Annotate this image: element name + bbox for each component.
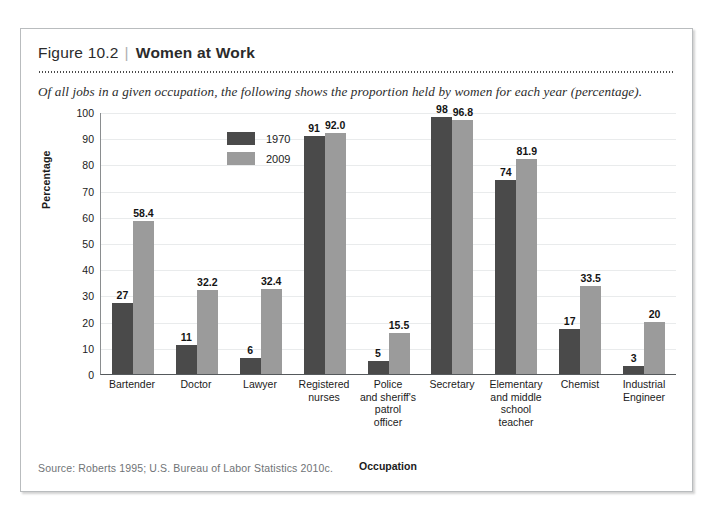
x-axis-tick-line: patrol — [358, 403, 418, 416]
bar-2009: 32.4 — [261, 289, 282, 374]
bar-2009: 33.5 — [580, 286, 601, 374]
x-axis-tick-line: Registered — [294, 378, 354, 391]
bar-value-label: 5 — [375, 347, 381, 359]
bar-group: 9896.8 — [420, 113, 484, 374]
bar-1970: 27 — [112, 303, 133, 374]
y-axis-tick: 70 — [54, 186, 94, 198]
bar-group: 7481.9 — [484, 113, 548, 374]
bar-value-label: 74 — [500, 166, 512, 178]
x-axis-tick-line: Bartender — [102, 378, 162, 391]
x-axis-tick-line: Industrial — [614, 378, 674, 391]
bar-2009: 20 — [644, 322, 665, 374]
bar-group: 9192.0 — [293, 113, 357, 374]
bar-2009: 96.8 — [452, 120, 473, 374]
x-axis-tick: Secretary — [420, 378, 484, 428]
bar-value-label: 11 — [181, 331, 192, 343]
y-axis-tick: 20 — [54, 317, 94, 329]
legend-swatch-1970 — [227, 132, 255, 145]
figure-title-separator: | — [125, 44, 129, 61]
bar-value-label: 15.5 — [389, 319, 409, 331]
bar-group: 1132.2 — [165, 113, 229, 374]
bar-value-label: 33.5 — [580, 272, 600, 284]
y-axis-tick: 50 — [54, 238, 94, 250]
y-axis-tick: 60 — [54, 212, 94, 224]
bar-group: 515.5 — [357, 113, 421, 374]
chart-legend: 1970 2009 — [227, 132, 290, 172]
bar-group: 320 — [612, 113, 676, 374]
bar-1970: 98 — [431, 117, 452, 374]
x-axis-tick: Lawyer — [228, 378, 292, 428]
bar-1970: 11 — [176, 345, 197, 374]
x-axis-tick-line: Doctor — [166, 378, 226, 391]
figure-subtitle: Of all jobs in a given occupation, the f… — [38, 84, 680, 100]
y-axis-tick: 30 — [54, 290, 94, 302]
bar-value-label: 96.8 — [453, 106, 473, 118]
legend-item-2009: 2009 — [227, 152, 290, 165]
bar-2009: 32.2 — [197, 290, 218, 374]
legend-label-2009: 2009 — [266, 153, 290, 165]
x-axis-tick-line: teacher — [486, 416, 546, 429]
x-axis-tick-line: Lawyer — [230, 378, 290, 391]
figure-title: Women at Work — [136, 44, 255, 61]
bar-value-label: 81.9 — [517, 145, 537, 157]
figure-number: Figure 10.2 — [38, 44, 119, 61]
bar-value-label: 58.4 — [133, 207, 153, 219]
bar-value-label: 17 — [564, 315, 576, 327]
x-axis-tick-line: nurses — [294, 391, 354, 404]
y-axis-tick: 40 — [54, 264, 94, 276]
bar-group: 2758.4 — [101, 113, 165, 374]
bar-1970: 5 — [368, 361, 389, 374]
bar-value-label: 91 — [308, 122, 320, 134]
legend-swatch-2009 — [227, 152, 255, 165]
y-axis-tick: 100 — [54, 107, 94, 119]
bar-value-label: 27 — [117, 289, 129, 301]
bar-group: 1733.5 — [548, 113, 612, 374]
x-axis-tick: IndustrialEngineer — [612, 378, 676, 428]
y-axis-tick: 90 — [54, 133, 94, 145]
legend-item-1970: 1970 — [227, 132, 290, 145]
x-axis-tick-line: Elementary — [486, 378, 546, 391]
figure-header: Figure 10.2|Women at Work — [38, 44, 255, 62]
bar-value-label: 20 — [649, 308, 661, 320]
bars-layer: 2758.41132.2632.49192.0515.59896.87481.9… — [101, 113, 676, 374]
bar-2009: 58.4 — [133, 221, 154, 374]
bar-1970: 6 — [240, 358, 261, 374]
bar-1970: 91 — [304, 136, 325, 374]
x-axis-tick-labels: BartenderDoctorLawyerRegisterednursesPol… — [100, 378, 676, 428]
bar-value-label: 92.0 — [325, 119, 345, 131]
x-axis-tick-line: Engineer — [614, 391, 674, 404]
x-axis-tick: Chemist — [548, 378, 612, 428]
bar-2009: 15.5 — [389, 333, 410, 374]
x-axis-tick-line: and sheriff's — [358, 391, 418, 404]
x-axis-tick-line: officer — [358, 416, 418, 429]
y-axis-tick-labels: 0102030405060708090100 — [54, 113, 94, 375]
x-axis-tick-line: and middle — [486, 391, 546, 404]
x-axis-tick-line: Chemist — [550, 378, 610, 391]
x-axis-tick-line: Police — [358, 378, 418, 391]
title-divider — [38, 71, 675, 73]
source-note: Source: Roberts 1995; U.S. Bureau of Lab… — [38, 462, 333, 474]
y-axis-tick: 80 — [54, 159, 94, 171]
bar-2009: 81.9 — [516, 159, 537, 374]
x-axis-tick: Doctor — [164, 378, 228, 428]
x-axis-tick-line: school — [486, 403, 546, 416]
bar-value-label: 32.4 — [261, 275, 281, 287]
legend-label-1970: 1970 — [266, 133, 290, 145]
y-axis-tick: 10 — [54, 343, 94, 355]
y-axis-tick: 0 — [54, 369, 94, 381]
x-axis-tick: Bartender — [100, 378, 164, 428]
bar-value-label: 98 — [436, 103, 448, 115]
figure-panel: Figure 10.2|Women at Work Of all jobs in… — [20, 28, 693, 492]
bar-1970: 17 — [559, 329, 580, 374]
bar-chart: Percentage 0102030405060708090100 2758.4… — [38, 113, 676, 453]
bar-value-label: 6 — [247, 344, 253, 356]
bar-value-label: 3 — [631, 352, 637, 364]
x-axis-tick: Elementaryand middleschoolteacher — [484, 378, 548, 428]
bar-1970: 3 — [623, 366, 644, 374]
bar-1970: 74 — [495, 180, 516, 374]
x-axis-tick: Policeand sheriff'spatrolofficer — [356, 378, 420, 428]
x-axis-tick: Registerednurses — [292, 378, 356, 428]
bar-value-label: 32.2 — [197, 276, 217, 288]
x-axis-tick-line: Secretary — [422, 378, 482, 391]
bar-2009: 92.0 — [325, 133, 346, 374]
